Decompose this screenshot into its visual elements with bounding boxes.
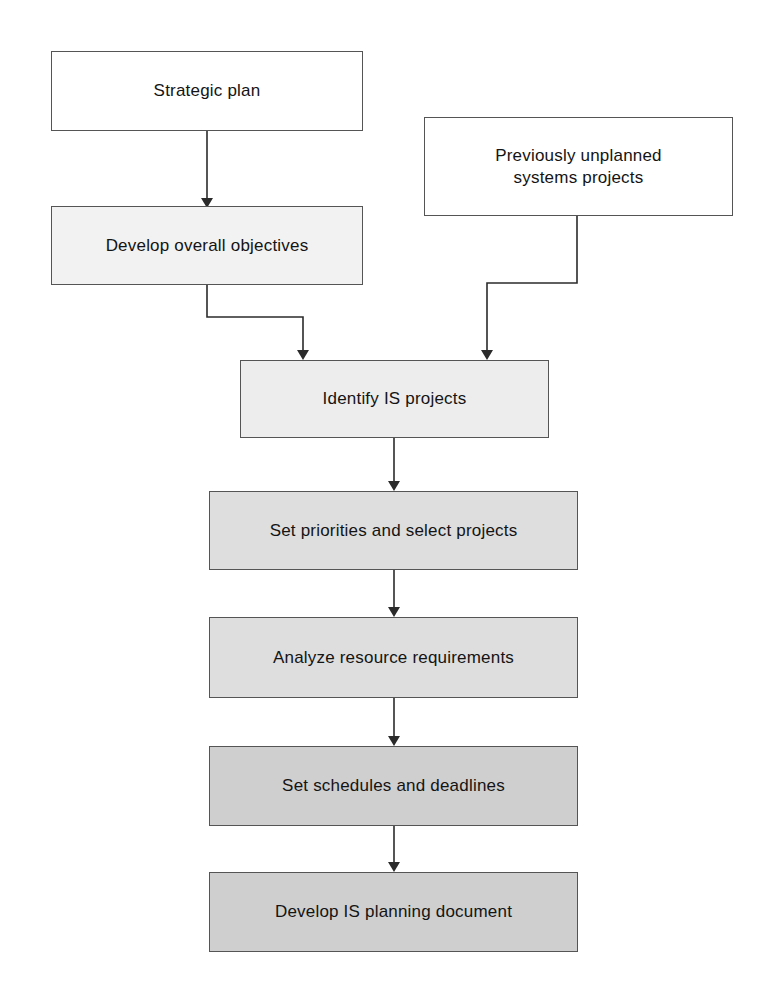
node-label: Previously unplanned systems projects [489, 145, 668, 189]
node-label: Set priorities and select projects [264, 520, 524, 542]
node-set-priorities-and-select-projects[interactable]: Set priorities and select projects [209, 491, 578, 570]
connector-analyze-resource-requirements-to-set-schedules [388, 698, 400, 746]
node-label: Set schedules and deadlines [276, 775, 511, 797]
node-label: Identify IS projects [317, 388, 473, 410]
connector-identify-is-projects-to-set-priorities [388, 438, 400, 491]
node-label: Strategic plan [148, 80, 267, 102]
node-develop-overall-objectives[interactable]: Develop overall objectives [51, 206, 363, 285]
node-develop-is-planning-document[interactable]: Develop IS planning document [209, 872, 578, 952]
node-label: Develop overall objectives [100, 235, 315, 257]
node-set-schedules-and-deadlines[interactable]: Set schedules and deadlines [209, 746, 578, 826]
connector-set-schedules-to-develop-is-planning-document [388, 826, 400, 872]
connector-set-priorities-to-analyze-resource-requirements [388, 570, 400, 617]
node-analyze-resource-requirements[interactable]: Analyze resource requirements [209, 617, 578, 698]
connector-previously-unplanned-to-identify-is-projects [481, 216, 577, 360]
connector-strategic-plan-to-develop-overall-objectives [201, 131, 213, 208]
node-label: Analyze resource requirements [267, 647, 520, 669]
connector-develop-overall-objectives-to-identify-is-projects [207, 285, 309, 360]
flowchart-diagram: Strategic plan Previously unplanned syst… [0, 0, 766, 1007]
node-identify-is-projects[interactable]: Identify IS projects [240, 360, 549, 438]
node-strategic-plan[interactable]: Strategic plan [51, 51, 363, 131]
node-label: Develop IS planning document [269, 901, 518, 923]
node-previously-unplanned-systems-projects[interactable]: Previously unplanned systems projects [424, 117, 733, 216]
